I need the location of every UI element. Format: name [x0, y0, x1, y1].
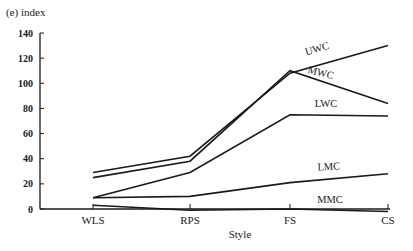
y-tick-label: 0 — [28, 204, 33, 215]
series-line-uwc — [93, 46, 388, 173]
series-label-mmc: MMC — [317, 194, 343, 205]
series-label-lwc: LWC — [315, 98, 338, 109]
line-chart: 020406080100120140WLSRPSFSCSStyleUWCMWCL… — [0, 0, 413, 251]
x-tick-label: CS — [381, 214, 394, 226]
y-tick-label: 120 — [18, 53, 33, 64]
y-tick-label: 60 — [23, 128, 33, 139]
x-tick-label: WLS — [81, 214, 104, 226]
series-label-mwc: MWC — [307, 64, 335, 81]
y-tick-label: 100 — [18, 78, 33, 89]
y-tick-label: 140 — [18, 28, 33, 39]
y-tick-label: 80 — [23, 103, 33, 114]
x-axis-title: Style — [229, 228, 252, 240]
series-line-mwc — [93, 71, 388, 178]
x-tick-label: FS — [284, 214, 296, 226]
series-line-lwc — [93, 115, 388, 198]
x-tick-label: RPS — [180, 214, 200, 226]
y-tick-label: 40 — [23, 153, 33, 164]
series-label-uwc: UWC — [304, 40, 331, 57]
series-label-lmc: LMC — [317, 160, 340, 172]
y-tick-label: 20 — [23, 178, 33, 189]
